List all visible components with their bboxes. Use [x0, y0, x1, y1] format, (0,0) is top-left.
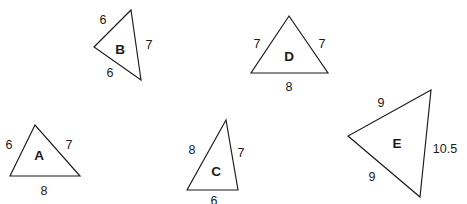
triangle-a-side-left: 6 [6, 138, 13, 152]
triangle-c-group: C 8 7 6 [187, 120, 245, 204]
triangle-d-side-right: 7 [319, 37, 326, 51]
triangle-e-side-upper: 9 [378, 96, 385, 110]
triangle-e-side-lower: 9 [369, 170, 376, 184]
triangle-e-outline [348, 90, 431, 197]
triangle-d-label: D [284, 49, 294, 64]
triangle-b-side-upper-left: 6 [100, 13, 107, 27]
geometry-diagram: A 6 7 8 B 6 7 6 C 8 7 6 D 7 7 8 [0, 0, 467, 204]
triangle-b-side-lower-left: 6 [107, 66, 114, 80]
triangle-a-group: A 6 7 8 [6, 125, 80, 198]
triangle-c-side-left: 8 [189, 143, 196, 157]
triangle-a-side-right: 7 [66, 138, 73, 152]
triangle-b-side-right: 7 [146, 38, 153, 52]
triangles-canvas: A 6 7 8 B 6 7 6 C 8 7 6 D 7 7 8 [0, 0, 467, 204]
triangle-c-side-right: 7 [238, 146, 245, 160]
triangle-b-group: B 6 7 6 [94, 10, 153, 80]
triangle-d-side-left: 7 [254, 37, 261, 51]
triangle-e-label: E [392, 136, 401, 151]
triangle-c-label: C [211, 164, 221, 179]
triangle-d-outline [251, 16, 328, 73]
triangle-a-label: A [34, 148, 44, 163]
triangle-d-side-base: 8 [286, 80, 293, 94]
triangle-e-group: E 9 10.5 9 [348, 90, 457, 197]
triangle-b-label: B [115, 42, 125, 57]
triangle-e-side-right: 10.5 [433, 142, 457, 156]
triangle-c-side-base: 6 [211, 194, 218, 204]
triangle-d-group: D 7 7 8 [251, 16, 328, 94]
triangle-a-side-base: 8 [41, 184, 48, 198]
